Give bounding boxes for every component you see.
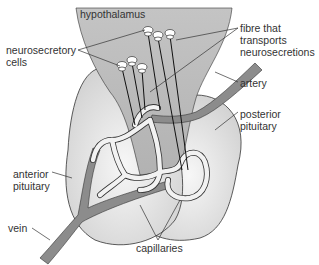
label-line: neurosecretory <box>6 44 76 56</box>
label-line: fibre that <box>240 22 315 34</box>
pituitary-diagram: hypothalamus neurosecretory cells fibre … <box>0 0 319 265</box>
label-line: transports <box>240 34 315 46</box>
label-line: posterior <box>240 108 281 120</box>
label-line: cells <box>6 56 76 68</box>
label-anterior-pituitary: anterior pituitary <box>13 168 50 192</box>
label-artery: artery <box>240 77 267 89</box>
label-hypothalamus: hypothalamus <box>80 8 145 20</box>
label-line: pituitary <box>240 120 281 132</box>
label-line: neurosecretions <box>240 46 315 58</box>
label-fibre: fibre that transports neurosecretions <box>240 22 315 58</box>
label-capillaries: capillaries <box>136 242 183 254</box>
label-vein: vein <box>8 222 27 234</box>
label-line: pituitary <box>13 180 50 192</box>
label-neurosecretory-cells: neurosecretory cells <box>6 44 76 68</box>
label-posterior-pituitary: posterior pituitary <box>240 108 281 132</box>
label-line: anterior <box>13 168 50 180</box>
